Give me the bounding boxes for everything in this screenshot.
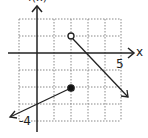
y-axis-label: f(x) [28, 0, 47, 3]
y-tick-label-neg4: -4 [19, 115, 31, 127]
x-axis-label: x [136, 46, 143, 58]
filled-circle-marker [68, 85, 74, 91]
open-circle-marker [68, 33, 74, 39]
x-tick-label-5: 5 [116, 58, 124, 70]
